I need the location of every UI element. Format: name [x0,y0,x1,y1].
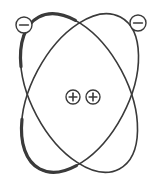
electron-left [16,17,32,33]
proton-right [86,90,100,104]
electron-right [130,15,146,31]
nucleus [66,90,100,104]
atom-diagram [0,0,159,180]
proton-left [66,90,80,104]
